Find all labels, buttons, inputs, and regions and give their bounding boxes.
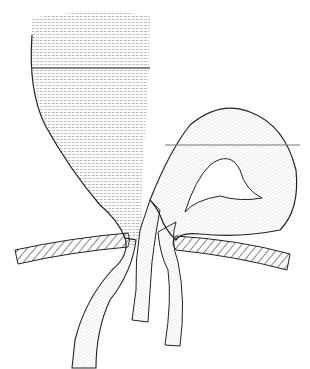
curved-loop (150, 108, 300, 240)
anatomical-drawing (0, 0, 310, 369)
left-hatched-band (15, 233, 130, 264)
right-hatched-band (173, 236, 290, 270)
upper-pouch (31, 12, 150, 248)
illustration (0, 0, 310, 369)
left-tube (72, 238, 136, 368)
